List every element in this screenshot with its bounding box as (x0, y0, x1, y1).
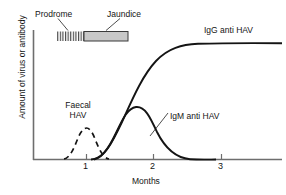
faecal-hav-label-line2: HAV (58, 110, 98, 120)
prodrome-label: Prodrome (35, 10, 72, 20)
prodrome-leader-line (58, 19, 68, 31)
curve-igg-anti-hav (94, 43, 282, 159)
prodrome-bar (57, 32, 84, 42)
x-axis-label: Months (132, 176, 160, 186)
faecal-hav-label-line1: Faecal (58, 100, 98, 110)
x-tick-label-2: 2 (150, 161, 155, 171)
x-tick-label-1: 1 (83, 161, 88, 171)
jaundice-label: Jaundice (107, 10, 141, 20)
hepatitis-a-serology-figure: Amount of virus or antibody Months 1 2 3… (0, 0, 286, 195)
x-tick-label-3: 3 (218, 161, 223, 171)
igm-curve-label: IgM anti HAV (170, 112, 219, 122)
jaundice-leader-line (106, 19, 120, 31)
jaundice-bar (84, 32, 128, 42)
y-axis-label: Amount of virus or antibody (17, 0, 27, 137)
igg-curve-label: IgG anti HAV (204, 26, 253, 36)
